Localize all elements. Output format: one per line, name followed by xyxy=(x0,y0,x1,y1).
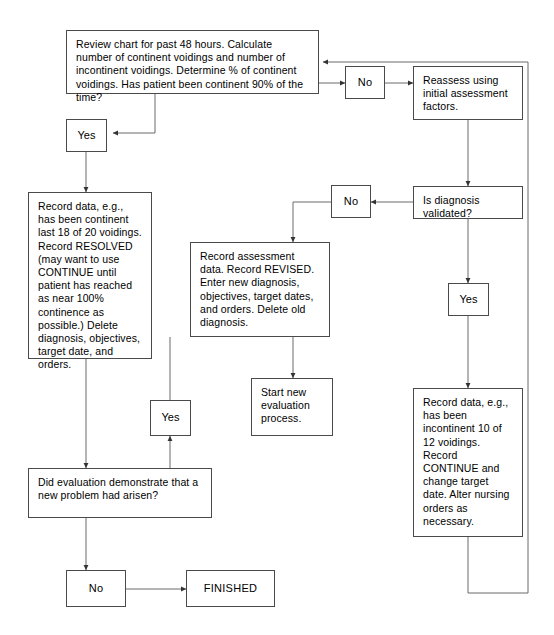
node-new-problem: Did evaluation demonstrate that a new pr… xyxy=(28,468,212,518)
node-yes-left-text: Yes xyxy=(77,129,95,142)
node-new-problem-text: Did evaluation demonstrate that a new pr… xyxy=(38,476,203,502)
node-record-revised: Record assessment data. Record REVISED. … xyxy=(190,242,330,337)
node-no-top-text: No xyxy=(358,76,372,89)
node-diagnosis-validated: Is diagnosis validated? xyxy=(413,186,523,219)
node-no-mid-text: No xyxy=(344,195,358,208)
node-yes-bottom: Yes xyxy=(150,400,191,436)
node-diagnosis-validated-text: Is diagnosis validated? xyxy=(423,194,514,220)
node-reassess: Reassess using initial assessment factor… xyxy=(413,66,523,120)
node-yes-left: Yes xyxy=(66,119,107,152)
node-no-mid: No xyxy=(331,185,371,218)
node-record-continue-text: Record data, e.g., has been incontinent … xyxy=(423,396,514,528)
node-record-resolved: Record data, e.g., has been continent la… xyxy=(28,192,152,359)
node-no-bottom-text: No xyxy=(89,582,103,595)
flowchart-canvas: Review chart for past 48 hours. Calculat… xyxy=(0,0,554,635)
node-yes-right: Yes xyxy=(448,283,489,316)
node-reassess-text: Reassess using initial assessment factor… xyxy=(423,74,514,114)
node-start-new: Start new evaluation process. xyxy=(251,378,333,436)
node-no-bottom: No xyxy=(66,570,126,607)
node-no-top: No xyxy=(345,66,385,99)
node-finished-text: FINISHED xyxy=(204,582,258,595)
node-finished: FINISHED xyxy=(186,570,275,607)
node-start-new-text: Start new evaluation process. xyxy=(261,386,324,426)
node-record-resolved-text: Record data, e.g., has been continent la… xyxy=(38,200,143,372)
node-record-revised-text: Record assessment data. Record REVISED. … xyxy=(200,250,321,329)
edge-no-mid-to-record-revised xyxy=(293,202,331,242)
node-yes-bottom-text: Yes xyxy=(161,411,179,424)
node-yes-right-text: Yes xyxy=(459,293,477,306)
node-review-chart: Review chart for past 48 hours. Calculat… xyxy=(66,30,319,94)
node-record-continue: Record data, e.g., has been incontinent … xyxy=(413,388,523,537)
node-review-chart-text: Review chart for past 48 hours. Calculat… xyxy=(76,38,310,104)
